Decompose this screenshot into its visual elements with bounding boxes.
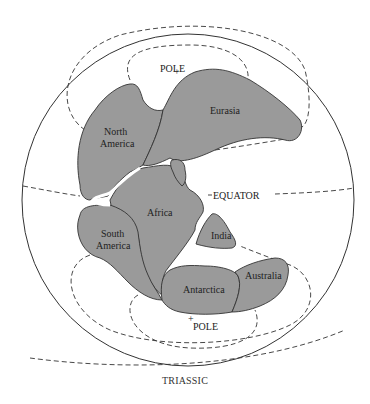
equator-line-left	[23, 186, 80, 196]
equator-label: EQUATOR	[213, 190, 260, 201]
label-africa: Africa	[147, 207, 173, 218]
landmass-australia	[232, 258, 288, 312]
pangaea-globe-diagram: + + POLE POLE EQUATOR Eurasia North Amer…	[0, 0, 370, 404]
south-pole-label: POLE	[193, 321, 218, 332]
label-india: India	[211, 230, 232, 241]
label-australia: Australia	[245, 270, 282, 281]
label-south-america-line1: South	[101, 228, 124, 239]
label-eurasia: Eurasia	[210, 105, 241, 116]
label-south-america-line2: America	[96, 240, 131, 251]
label-north-america-line2: America	[100, 138, 135, 149]
label-antarctica: Antarctica	[183, 284, 225, 295]
label-north-america-line1: North	[104, 126, 127, 137]
diagram-caption: TRIASSIC	[0, 375, 370, 386]
north-pole-label: POLE	[160, 63, 185, 74]
equator-line-right	[275, 188, 354, 194]
landmass-eurasia	[143, 69, 302, 165]
